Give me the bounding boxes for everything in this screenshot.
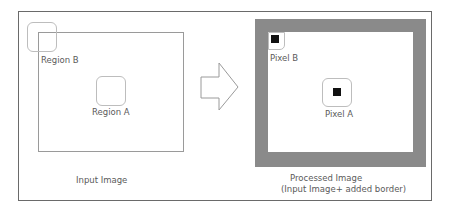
pixel-a-square <box>333 88 341 96</box>
processed-image-subcaption: (Input Image+ added border) <box>281 184 406 194</box>
region-b-box <box>27 22 57 52</box>
processed-image-caption: Processed Image <box>290 173 362 183</box>
pixel-b-label: Pixel B <box>270 53 298 63</box>
region-a-box <box>96 76 126 106</box>
right-arrow-outline-icon <box>195 58 245 116</box>
region-a-label: Region A <box>92 107 130 117</box>
pixel-b-square <box>271 35 279 43</box>
region-b-label: Region B <box>41 55 79 65</box>
input-image-caption: Input Image <box>76 175 127 185</box>
pixel-a-label: Pixel A <box>325 109 353 119</box>
